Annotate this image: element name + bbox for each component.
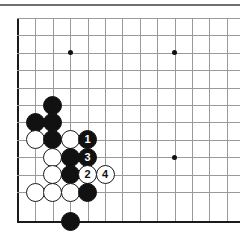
grid-line-horizontal [17,53,240,54]
stone-black[interactable] [26,113,45,132]
stone-white[interactable] [26,130,45,149]
stone-move-number: 4 [102,169,108,180]
goban-grid[interactable]: 1324 [0,0,240,247]
stone-white[interactable] [61,183,80,202]
grid-line-horizontal [17,88,240,89]
board-edge-left [17,18,19,221]
stone-move-number: 1 [85,134,91,145]
stone-black[interactable] [61,165,80,184]
grid-line-vertical [227,18,228,221]
grid-line-vertical [140,18,141,221]
star-point-lower-right [172,155,177,160]
star-point-left [68,50,73,55]
grid-line-vertical [122,18,123,221]
grid-line-vertical [209,18,210,221]
grid-line-vertical [175,18,176,221]
stone-black[interactable] [43,96,62,115]
stone-black[interactable] [78,183,97,202]
stone-white[interactable] [43,165,62,184]
star-point-right [172,50,177,55]
stone-move-1[interactable]: 1 [78,130,97,149]
grid-line-vertical [192,18,193,221]
stone-black[interactable] [61,148,80,167]
stone-black[interactable] [43,130,62,149]
stone-move-3[interactable]: 3 [78,148,97,167]
go-board-figure: 1324 [0,0,240,247]
stone-black[interactable] [43,113,62,132]
stone-move-number: 2 [85,169,91,180]
stone-move-number: 3 [85,151,91,162]
stone-white[interactable] [61,130,80,149]
grid-line-horizontal [17,18,240,19]
stone-move-2[interactable]: 2 [78,165,97,184]
grid-line-horizontal [17,70,240,71]
board-edge-bottom [17,221,240,223]
stone-move-4[interactable]: 4 [96,165,115,184]
grid-line-horizontal [17,35,240,36]
grid-line-vertical [157,18,158,221]
stone-black[interactable] [61,212,80,231]
stone-white[interactable] [43,148,62,167]
grid-line-vertical [105,18,106,221]
stone-white[interactable] [26,183,45,202]
stone-white[interactable] [43,183,62,202]
